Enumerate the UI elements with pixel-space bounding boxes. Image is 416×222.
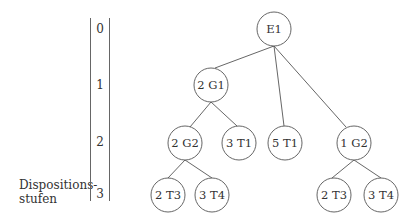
edge-g2b-t4b	[354, 160, 381, 178]
tree-node-t4a: 3 T4	[195, 178, 229, 212]
tree-diagram: E1 2 G1 2 G2 3 T1 5 T1 1 G2 2 T3 3 T4 2 …	[0, 0, 416, 222]
tree-node-g1: 2 G1	[194, 68, 228, 102]
svg-text:3 T4: 3 T4	[199, 188, 225, 202]
edge-g2a-t4a	[185, 160, 212, 178]
edge-e1-g2b	[274, 46, 346, 127]
edge-g1-t1a	[211, 102, 237, 126]
tree-node-t4b: 3 T4	[364, 178, 398, 212]
edge-e1-t1b	[274, 46, 284, 126]
tree-node-t3b: 2 T3	[317, 178, 351, 212]
svg-text:3 T1: 3 T1	[226, 136, 252, 150]
svg-text:3 T4: 3 T4	[368, 188, 394, 202]
svg-text:1 G2: 1 G2	[340, 136, 367, 150]
tree-node-t1a: 3 T1	[222, 126, 256, 160]
edge-g2b-t3b	[332, 160, 354, 178]
svg-text:2 T3: 2 T3	[155, 188, 181, 202]
svg-text:5 T1: 5 T1	[272, 136, 298, 150]
tree-node-e1: E1	[257, 12, 291, 46]
tree-node-t3a: 2 T3	[151, 178, 185, 212]
tree-node-t1b: 5 T1	[268, 126, 302, 160]
svg-text:E1: E1	[266, 22, 282, 36]
tree-node-g2b: 1 G2	[337, 126, 371, 160]
edge-e1-g1	[215, 46, 274, 68]
tree-node-g2a: 2 G2	[168, 126, 202, 160]
svg-text:2 T3: 2 T3	[321, 188, 347, 202]
svg-text:2 G2: 2 G2	[171, 136, 198, 150]
edge-g1-g2a	[190, 102, 211, 127]
edge-g2a-t3a	[168, 160, 185, 178]
svg-text:2 G1: 2 G1	[197, 78, 224, 92]
